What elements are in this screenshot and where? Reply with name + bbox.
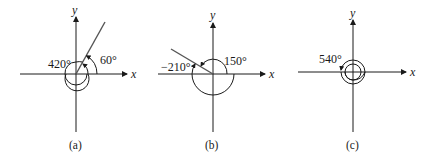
figure-b: y x −210° 150° (b) — [140, 0, 282, 160]
angle-label-540: 540° — [319, 53, 342, 65]
x-axis-label: x — [410, 66, 415, 78]
y-axis-label: y — [72, 4, 77, 16]
figure-caption: (a) — [69, 139, 82, 151]
y-axis-label: y — [210, 9, 215, 21]
figure-b-graphic — [140, 0, 282, 160]
angle-label-60: 60° — [100, 54, 117, 66]
y-axis-label: y — [350, 7, 355, 19]
figure-a: y x 420° 60° (a) — [0, 0, 142, 160]
x-axis-label: x — [269, 68, 274, 80]
angle-label-150: 150° — [224, 55, 247, 67]
figure-caption: (c) — [346, 139, 359, 151]
figure-a-graphic — [0, 0, 142, 160]
figure-c-graphic — [283, 0, 425, 160]
x-axis-label: x — [131, 68, 136, 80]
angle-label-420: 420° — [48, 58, 71, 70]
angle-label-neg210: −210° — [161, 61, 191, 73]
figure-c: y x 540° (c) — [283, 0, 425, 160]
figure-caption: (b) — [205, 139, 218, 151]
